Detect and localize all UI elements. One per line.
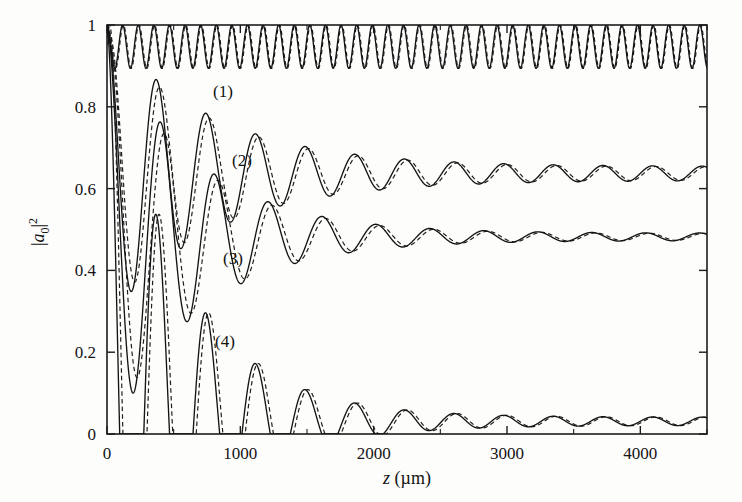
y-tick-label: 0.6	[75, 180, 96, 199]
x-tick-label: 0	[103, 444, 112, 463]
svg-text:z (µm): z (µm)	[382, 468, 431, 489]
y-tick-label: 1	[88, 16, 97, 35]
x-tick-label: 4000	[623, 444, 657, 463]
curve-label-2: (2)	[232, 151, 252, 170]
x-axis-title-variable: z	[382, 468, 390, 488]
x-axis-title-unit: (µm)	[395, 468, 431, 489]
x-tick-label: 1000	[223, 444, 257, 463]
curve-solid-3	[107, 25, 707, 393]
x-axis-title: z (µm)	[382, 468, 431, 489]
x-tick-label: 2000	[357, 444, 391, 463]
y-tick-label: 0.2	[75, 343, 96, 362]
y-axis-title: |a0|2	[26, 218, 52, 246]
curve-label-1: (1)	[213, 82, 233, 101]
y-title-a: a	[28, 234, 48, 243]
axis-tick-labels: 0100020003000400000.20.40.60.81	[75, 16, 658, 463]
y-tick-label: 0.8	[75, 98, 96, 117]
curve-solid-4	[107, 25, 707, 434]
curve-label-4: (4)	[215, 332, 235, 351]
curve-solid-2	[107, 25, 707, 292]
y-title-superscript: 2	[26, 218, 40, 224]
data-curves	[107, 25, 707, 434]
plot-svg: 0100020003000400000.20.40.60.81 (1)(2)(3…	[0, 0, 742, 502]
x-tick-label: 3000	[490, 444, 524, 463]
svg-text:|a0|2: |a0|2	[26, 218, 52, 246]
figure-panel: 0100020003000400000.20.40.60.81 (1)(2)(3…	[0, 0, 742, 502]
y-tick-label: 0.4	[75, 261, 97, 280]
curve-label-3: (3)	[223, 249, 243, 268]
curve-dashed-3	[107, 25, 707, 377]
y-tick-label: 0	[88, 425, 97, 444]
